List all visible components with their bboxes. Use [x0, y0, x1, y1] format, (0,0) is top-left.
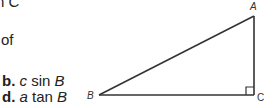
- vertex-label-a: A: [249, 1, 257, 12]
- right-angle-marker: [246, 87, 254, 95]
- vertex-label-c: C: [257, 92, 264, 103]
- side-ab: [99, 16, 254, 95]
- vertex-label-b: B: [87, 90, 94, 101]
- right-triangle-diagram: A B C: [0, 0, 279, 108]
